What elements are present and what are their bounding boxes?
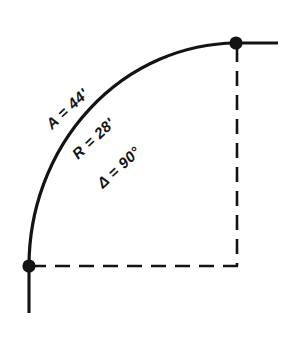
curve-diagram-canvas: A = 44' R = 28' Δ = 90° bbox=[0, 0, 283, 339]
curve-diagram: A = 44' R = 28' Δ = 90° bbox=[0, 0, 283, 339]
point-of-curvature-dot bbox=[22, 259, 35, 272]
radius-label: R = 28' bbox=[68, 115, 117, 163]
arc-length-label: A = 44' bbox=[42, 85, 92, 133]
point-of-tangency-dot bbox=[229, 36, 242, 49]
delta-angle-label: Δ = 90° bbox=[93, 142, 144, 191]
